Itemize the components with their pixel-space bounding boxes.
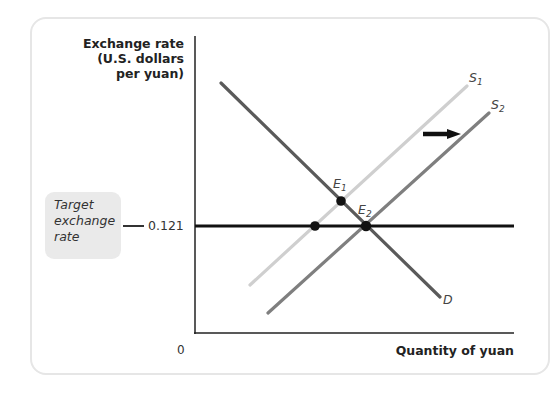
s1-label: S1	[469, 70, 483, 87]
demand-curve	[221, 83, 440, 297]
x-axis-label: Quantity of yuan	[396, 343, 514, 358]
origin-label: 0	[177, 343, 185, 357]
equilibrium-e1-dot	[336, 196, 346, 206]
e1-label: E1	[333, 176, 347, 193]
equilibrium-e2-dot	[361, 221, 371, 231]
supply-curve-s2	[268, 113, 489, 313]
supply-curve-s1	[250, 86, 467, 285]
s1-target-dot	[310, 221, 320, 231]
shift-right-arrow-icon	[423, 129, 461, 139]
d-label: D	[443, 292, 453, 307]
s2-label: S2	[491, 97, 505, 114]
plot-area	[0, 0, 556, 393]
e2-label: E2	[358, 202, 372, 219]
